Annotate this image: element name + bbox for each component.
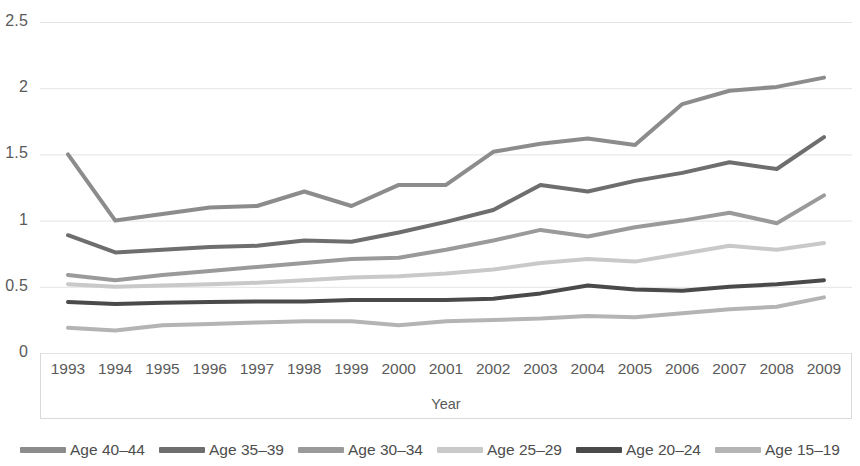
series-line bbox=[68, 195, 824, 280]
legend-label: Age 15–19 bbox=[765, 441, 840, 459]
x-axis-tick-label: 1997 bbox=[233, 360, 280, 378]
x-axis-tick-label: 2005 bbox=[611, 360, 658, 378]
legend-item[interactable]: Age 35–39 bbox=[159, 441, 284, 459]
chart-legend: Age 40–44Age 35–39Age 30–34Age 25–29Age … bbox=[0, 437, 860, 463]
legend-label: Age 25–29 bbox=[487, 441, 562, 459]
x-axis-tick-label: 1994 bbox=[92, 360, 139, 378]
x-axis-tick-label: 2000 bbox=[375, 360, 422, 378]
x-axis-tick-label: 1996 bbox=[186, 360, 233, 378]
x-axis-tick-label: 2003 bbox=[517, 360, 564, 378]
x-axis-tick-labels: 1993199419951996199719981999200020012002… bbox=[40, 360, 852, 386]
legend-item[interactable]: Age 30–34 bbox=[298, 441, 423, 459]
x-axis-tick-label: 2002 bbox=[470, 360, 517, 378]
x-axis-tick-label: 2009 bbox=[800, 360, 847, 378]
legend-color-swatch bbox=[576, 447, 622, 453]
x-axis-tick-label: 1995 bbox=[139, 360, 186, 378]
legend-color-swatch bbox=[159, 447, 205, 453]
legend-color-swatch bbox=[20, 447, 66, 453]
legend-color-swatch bbox=[715, 447, 761, 453]
x-axis-tick-label: 2001 bbox=[422, 360, 469, 378]
x-axis-tick-label: 1998 bbox=[281, 360, 328, 378]
series-line bbox=[68, 78, 824, 221]
legend-label: Age 30–34 bbox=[348, 441, 423, 459]
x-axis-tick-label: 2007 bbox=[706, 360, 753, 378]
series-lines bbox=[68, 78, 824, 331]
legend-item[interactable]: Age 20–24 bbox=[576, 441, 701, 459]
legend-color-swatch bbox=[298, 447, 344, 453]
legend-color-swatch bbox=[437, 447, 483, 453]
x-axis-tick-label: 2008 bbox=[753, 360, 800, 378]
legend-item[interactable]: Age 25–29 bbox=[437, 441, 562, 459]
x-axis-tick-label: 1993 bbox=[44, 360, 91, 378]
legend-item[interactable]: Age 40–44 bbox=[20, 441, 145, 459]
legend-item[interactable]: Age 15–19 bbox=[715, 441, 840, 459]
x-axis-tick-label: 2006 bbox=[659, 360, 706, 378]
x-axis-tick-label: 1999 bbox=[328, 360, 375, 378]
legend-label: Age 20–24 bbox=[626, 441, 701, 459]
x-axis-title: Year bbox=[40, 396, 852, 412]
line-chart: 00.511.522.5 199319941995199619971998199… bbox=[0, 0, 860, 466]
x-axis-tick-label: 2004 bbox=[564, 360, 611, 378]
legend-label: Age 35–39 bbox=[209, 441, 284, 459]
legend-label: Age 40–44 bbox=[70, 441, 145, 459]
